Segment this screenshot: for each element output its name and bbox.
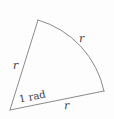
arc-length-label: r (79, 33, 85, 44)
arc-path (38, 20, 104, 91)
sector-diagram: r r r 1 rad (0, 0, 114, 119)
radius-label-left: r (13, 60, 19, 71)
radius-label-bottom: r (64, 100, 70, 111)
